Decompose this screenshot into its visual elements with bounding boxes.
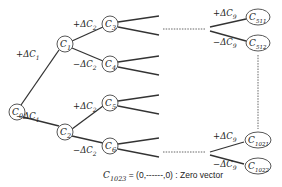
edge-label: −ΔC2 (73, 145, 97, 157)
edge-c1-c3 (72, 27, 103, 41)
edge-c3-up (118, 16, 159, 22)
node-c1: C1 (57, 36, 73, 52)
edge-label: −ΔC9 (213, 37, 237, 49)
ellipsis-lines (163, 29, 258, 152)
edge-label: +ΔC2 (73, 101, 97, 113)
edge-c6-down (118, 149, 159, 157)
edge-c4-down (118, 67, 159, 75)
caption: C1023 = (0,------,0) : Zero vector (103, 170, 223, 183)
edge-label: +ΔC9 (213, 131, 237, 143)
edge-c2-c6 (72, 136, 103, 143)
edge-to-c511 (210, 19, 246, 27)
edge-to-c1021 (210, 142, 244, 152)
edge-c5-up (118, 95, 159, 101)
node-c6: C6 (102, 138, 118, 154)
edge-c6-up (118, 138, 159, 144)
binary-tree-diagram: C0C1C2C3C4C5C6C511C512C1021C1022 +ΔC1−ΔC… (0, 0, 282, 187)
node-c1022: C1022 (245, 158, 271, 174)
node-c3: C3 (102, 16, 118, 32)
node-c4: C4 (102, 56, 118, 72)
tree-nodes: C0C1C2C3C4C5C6C511C512C1021C1022 (9, 9, 271, 174)
edge-label: −ΔC1 (16, 111, 40, 123)
node-c512: C512 (246, 35, 270, 51)
node-c511: C511 (246, 9, 270, 25)
caption-text: = (0,------,0) : Zero vector (126, 170, 223, 180)
node-c5: C5 (102, 95, 118, 111)
edge-label: +ΔC1 (16, 49, 40, 61)
edge-c3-down (118, 27, 159, 35)
node-c1021: C1021 (245, 132, 271, 148)
node-c2: C2 (57, 124, 73, 140)
edge-c4-up (118, 56, 159, 62)
edge-label: −ΔC2 (73, 59, 97, 71)
edge-label: +ΔC9 (213, 8, 237, 20)
edge-labels: +ΔC1−ΔC1+ΔC2−ΔC2+ΔC2−ΔC2+ΔC9−ΔC9+ΔC9−ΔC9 (16, 8, 237, 171)
caption-subscript: 1023 (110, 175, 127, 183)
edge-label: +ΔC2 (73, 19, 97, 31)
edge-c5-down (118, 106, 159, 114)
